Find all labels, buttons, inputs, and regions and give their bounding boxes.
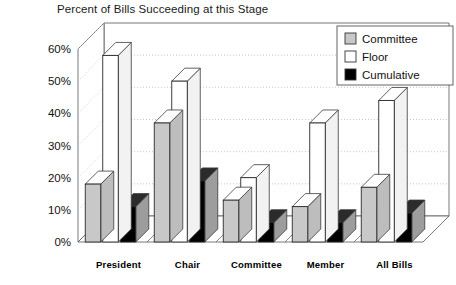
bar-front-face [361,187,377,242]
x-axis-category-label: Member [307,259,345,270]
x-axis-category-label: Chair [175,259,200,270]
legend-label-floor: Floor [362,51,388,63]
bar-front-face [292,207,308,242]
bar-side-face [325,110,338,242]
y-axis-tick-label: 20% [48,172,71,184]
legend-swatch-committee [345,33,356,44]
x-axis-category-label: President [96,259,142,270]
bar-side-face [170,110,183,242]
legend-label-cumulative: Cumulative [362,69,420,81]
y-axis-tick-label: 10% [48,204,71,216]
legend-swatch-cumulative [345,69,356,80]
bar-side-face [394,87,407,242]
chart-container: Percent of Bills Succeeding at this Stag… [0,0,456,285]
bar-committee-all-bills [361,174,390,242]
bar-committee-president [85,171,114,242]
chart-plot-area: 0%10%20%30%40%50%60%PresidentChairCommit… [0,0,456,285]
x-axis-category-label: All Bills [376,259,413,270]
bar-side-face [118,42,131,242]
y-axis-tick-label: 0% [54,236,71,248]
bar-committee-committee [223,187,252,242]
bar-committee-chair [154,110,183,242]
y-axis-tick-label: 50% [48,75,71,87]
legend-label-committee: Committee [362,33,418,45]
bar-side-face [187,68,200,242]
y-axis-tick-label: 30% [48,140,71,152]
y-axis-tick-label: 60% [48,43,71,55]
x-axis-category-label: Committee [231,259,282,270]
bar-front-face [154,123,170,242]
bar-front-face [85,184,101,242]
bar-front-face [223,200,239,242]
y-axis-tick-label: 40% [48,107,71,119]
legend-swatch-floor [345,51,356,62]
